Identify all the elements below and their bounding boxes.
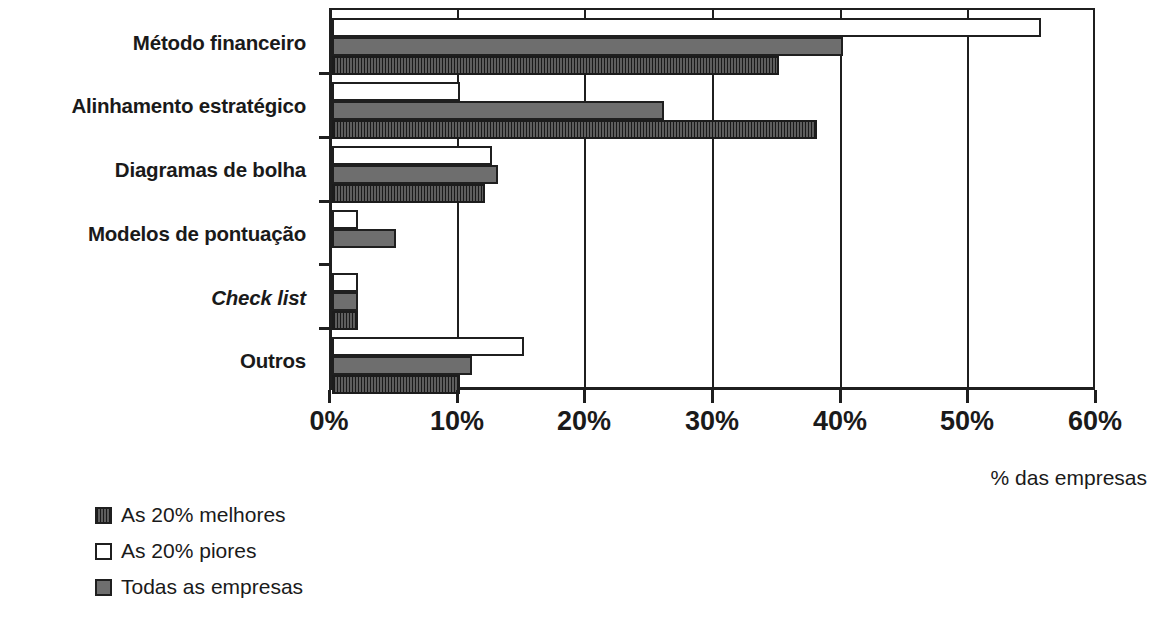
x-tick-label-50: 50%	[917, 406, 1017, 437]
y-tick-2	[319, 136, 332, 139]
x-tick-label-0: 0%	[279, 406, 379, 437]
bar-diagramas-melhores[interactable]	[332, 184, 485, 203]
bar-metodo-financeiro-todas[interactable]	[332, 37, 843, 56]
x-axis-title: % das empresas	[991, 466, 1147, 490]
bar-metodo-financeiro-piores[interactable]	[332, 18, 1041, 37]
x-tick-label-40: 40%	[790, 406, 890, 437]
bar-checklist-todas[interactable]	[332, 292, 358, 311]
x-tick-50	[966, 390, 969, 403]
gridline-40	[840, 10, 842, 387]
bar-outros-todas[interactable]	[332, 356, 472, 375]
bar-outros-melhores[interactable]	[332, 375, 460, 394]
category-label-alinhamento-estrategico: Alinhamento estratégico	[6, 94, 306, 118]
bar-modelos-piores[interactable]	[332, 210, 358, 229]
legend-label-melhores: As 20% melhores	[121, 503, 286, 527]
category-axis-labels: Método financeiro Alinhamento estratégic…	[0, 8, 318, 390]
bar-alinhamento-melhores[interactable]	[332, 120, 817, 139]
legend-label-todas: Todas as empresas	[121, 575, 303, 599]
y-tick-4	[319, 263, 332, 266]
x-tick-label-20: 20%	[534, 406, 634, 437]
category-label-check-list: Check list	[6, 286, 306, 310]
plot-area	[329, 8, 1095, 390]
x-tick-label-30: 30%	[662, 406, 762, 437]
category-label-modelos-de-pontuacao: Modelos de pontuação	[6, 222, 306, 246]
category-label-outros: Outros	[6, 349, 306, 373]
bar-alinhamento-todas[interactable]	[332, 101, 664, 120]
x-tick-0	[328, 390, 331, 403]
bar-diagramas-piores[interactable]	[332, 146, 492, 165]
bar-outros-piores[interactable]	[332, 337, 524, 356]
bar-checklist-melhores[interactable]	[332, 311, 358, 330]
x-tick-30	[711, 390, 714, 403]
x-tick-20	[583, 390, 586, 403]
x-tick-label-10: 10%	[407, 406, 507, 437]
legend-item-todas[interactable]: Todas as empresas	[95, 572, 303, 602]
legend-item-piores[interactable]: As 20% piores	[95, 536, 303, 566]
x-tick-40	[839, 390, 842, 403]
bar-modelos-todas[interactable]	[332, 229, 396, 248]
gridline-50	[967, 10, 969, 387]
legend-swatch-icon-piores	[95, 543, 112, 560]
bar-metodo-financeiro-melhores[interactable]	[332, 56, 779, 75]
category-label-metodo-financeiro: Método financeiro	[6, 31, 306, 55]
x-tick-label-60: 60%	[1045, 406, 1145, 437]
y-tick-3	[319, 200, 332, 203]
legend-swatch-icon-todas	[95, 579, 112, 596]
y-tick-1	[319, 72, 332, 75]
chart-legend: As 20% melhores As 20% piores Todas as e…	[95, 500, 303, 608]
bar-chart: Método financeiro Alinhamento estratégic…	[0, 0, 1167, 640]
bar-checklist-piores[interactable]	[332, 273, 358, 292]
bar-diagramas-todas[interactable]	[332, 165, 498, 184]
y-tick-5	[319, 327, 332, 330]
x-tick-60	[1094, 390, 1097, 403]
legend-swatch-icon-melhores	[95, 507, 112, 524]
legend-label-piores: As 20% piores	[121, 539, 256, 563]
category-label-diagramas-de-bolha: Diagramas de bolha	[6, 158, 306, 182]
x-tick-10	[456, 390, 459, 403]
bar-alinhamento-piores[interactable]	[332, 82, 460, 101]
legend-item-melhores[interactable]: As 20% melhores	[95, 500, 303, 530]
